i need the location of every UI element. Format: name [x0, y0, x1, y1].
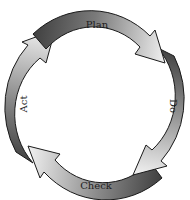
arrow-act: Act [5, 30, 55, 163]
stage-label-plan: Plan [86, 19, 109, 30]
pdca-cycle-diagram: Act Check Do Plan [0, 0, 190, 200]
stage-label-act: Act [18, 96, 29, 114]
arrow-do: Do [133, 48, 184, 175]
arrow-act-shape [5, 30, 55, 163]
stage-label-do: Do [168, 99, 179, 113]
stage-label-check: Check [80, 180, 113, 191]
arrow-plan: Plan [33, 11, 165, 63]
